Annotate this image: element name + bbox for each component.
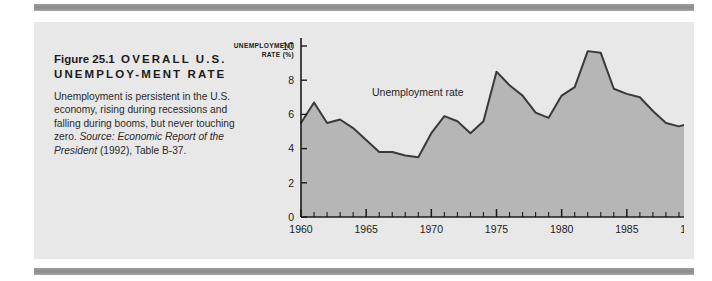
- plot-area: [301, 51, 684, 217]
- figure-panel: Figure 25.1 OVERALL U.S. UNEMPLOY-MENT R…: [34, 22, 694, 259]
- y-tick-label: 0: [288, 211, 294, 223]
- y-axis-title: UNEMPLOYMENT RATE (%): [210, 42, 294, 59]
- y-tick-label: 6: [288, 108, 294, 120]
- y-tick-label: 2: [288, 177, 294, 189]
- source-label: Source:: [79, 131, 114, 142]
- unemployment-rate-area-chart: 0246810 1960196519701975198019851990: [184, 30, 684, 255]
- y-tick-label: 8: [288, 74, 294, 86]
- x-tick-label: 1960: [289, 223, 313, 235]
- x-tick-label: 1980: [550, 223, 574, 235]
- top-divider-rule: [34, 4, 694, 11]
- chart-container: UNEMPLOYMENT RATE (%) Unemployment rate …: [184, 30, 684, 255]
- source-rest: (1992), Table B-37.: [97, 145, 186, 156]
- y-tick-label: 4: [288, 142, 294, 154]
- y-axis-title-line-2: RATE (%): [210, 51, 294, 60]
- bottom-divider-rule: [34, 268, 694, 275]
- x-tick-label: 1985: [615, 223, 639, 235]
- series-annotation-label: Unemployment rate: [372, 86, 464, 98]
- x-tick-label: 1965: [354, 223, 378, 235]
- x-tick-label: 1975: [485, 223, 509, 235]
- y-axis-title-line-1: UNEMPLOYMENT: [210, 42, 294, 51]
- x-tick-label: 1990: [680, 223, 684, 235]
- figure-number: Figure 25.1: [54, 53, 115, 65]
- x-tick-label: 1970: [420, 223, 444, 235]
